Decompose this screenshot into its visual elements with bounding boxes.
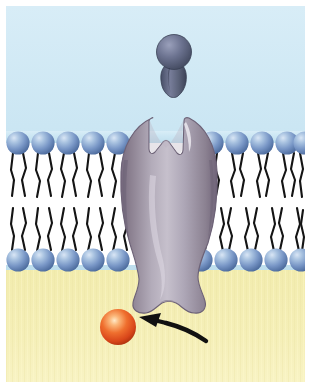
ligand-head bbox=[157, 35, 192, 70]
membrane-receptor-illustration bbox=[0, 0, 310, 387]
figure-root: Ligand binding to a transmembrane recept… bbox=[0, 0, 310, 387]
second-messenger-molecule[interactable] bbox=[100, 309, 136, 345]
